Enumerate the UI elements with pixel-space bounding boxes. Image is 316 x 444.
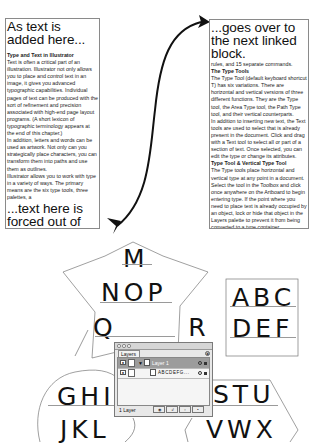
lock-toggle[interactable] (128, 359, 135, 367)
layers-list: ● ▼ Layer 1 ● ABCDEFG... (117, 357, 210, 406)
star-baseline-2 (100, 302, 172, 303)
right-section2-title: Type Tool & Vertical Type Tool (211, 160, 307, 167)
selection-indicator-icon[interactable] (204, 372, 207, 375)
star-baseline-1 (122, 264, 152, 265)
selection-indicator-icon[interactable] (204, 362, 207, 365)
left-heading: As text is added here... (7, 19, 98, 46)
target-icon[interactable] (198, 371, 202, 375)
layer-row[interactable]: ● ABCDEFG... (118, 368, 209, 379)
layers-palette[interactable]: Layers ▸ ● ▼ Layer 1 ● ABCDEFG... 1 Laye… (114, 342, 213, 417)
star-line-1: M (123, 244, 149, 273)
right-section1-title: The Type Tools (211, 68, 307, 75)
layer-name[interactable]: Layer 1 (152, 359, 169, 367)
text-frame-right[interactable]: ...goes over to the next linked block. r… (209, 19, 309, 229)
pentagon-line-2: VWX (206, 415, 277, 444)
square-baseline-1 (230, 306, 296, 307)
zoom-icon[interactable] (127, 344, 131, 348)
palette-titlebar[interactable] (115, 343, 212, 350)
delete-layer-button[interactable]: ▪ (192, 406, 204, 413)
star-baseline-3 (95, 336, 175, 337)
left-section-title: Type and Text in Illustrator (7, 52, 98, 59)
right-section1-body2: In addition to inserting new text, the T… (211, 118, 307, 161)
lock-toggle[interactable] (128, 369, 135, 377)
clipping-mask-button[interactable]: ◉ (153, 406, 165, 413)
minimize-icon[interactable] (122, 344, 126, 348)
callout-line-q (75, 330, 88, 356)
layer-count: 1 Layer (119, 406, 136, 414)
eye-icon[interactable]: ● (120, 370, 126, 375)
left-body-1: Text is often a critical part of an illu… (7, 59, 98, 137)
palette-footer: 1 Layer ◉ ↲ ▫ ▪ (117, 406, 210, 414)
layer-thumbnail (144, 359, 150, 366)
right-section2-body: The Type tools place horizontal and vert… (211, 167, 307, 229)
tab-layers[interactable]: Layers (118, 350, 140, 357)
eye-icon[interactable]: ● (120, 360, 126, 365)
right-heading: ...goes over to the next linked block. (211, 20, 307, 60)
palette-menu-icon[interactable]: ▸ (205, 351, 210, 356)
link-arrow-curve (117, 22, 201, 226)
circle-line-1: GHI (57, 382, 115, 411)
right-section1-body: The Type Tool (default keyboard shortcut… (211, 75, 307, 118)
pentagon-baseline-1 (212, 405, 278, 406)
create-sublayer-button[interactable]: ↲ (166, 406, 178, 413)
circle-line-2: JKL (60, 415, 110, 444)
target-icon[interactable] (198, 361, 202, 365)
square-line-2: DEF (232, 314, 293, 343)
circle-baseline-1 (48, 405, 116, 406)
left-body-3: Illustrator allows you to work with type… (7, 173, 98, 201)
right-intro: rules, and 15 separate commands. (211, 61, 307, 68)
callout-line-delete (185, 418, 192, 442)
layer-thumbnail (150, 369, 156, 376)
left-body-2: In addition, letters and words can be us… (7, 137, 98, 172)
callout-line-layer (125, 418, 135, 442)
expand-triangle-icon[interactable]: ▼ (138, 359, 143, 367)
layer-name[interactable]: ABCDEFG... (158, 369, 190, 377)
create-layer-button[interactable]: ▫ (179, 406, 191, 413)
square-baseline-2 (230, 337, 296, 338)
close-icon[interactable] (117, 344, 121, 348)
arrow-tail-icon (107, 218, 121, 234)
star-line-3: Q R (93, 313, 210, 342)
square-line-1: ABC (232, 283, 295, 312)
text-frame-left[interactable]: As text is added here... Type and Text i… (5, 18, 100, 229)
left-overflow-text: ...text here is forced out of the contai… (7, 202, 98, 229)
